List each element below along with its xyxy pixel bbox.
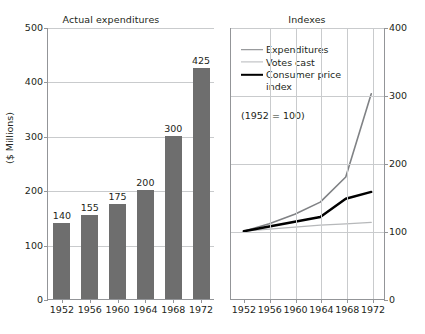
bar-value-label-1952: 140 [46, 211, 78, 221]
bar-1952 [53, 223, 70, 299]
bar-value-label-1968: 300 [157, 124, 189, 134]
x-tick-label-1956: 1956 [78, 305, 102, 315]
gridline-x [270, 28, 271, 299]
y-tick-mark [44, 137, 48, 138]
x-tick-mark [244, 299, 245, 303]
gridline-y [231, 164, 384, 165]
x-tick-mark [373, 299, 374, 303]
gridline-x [373, 28, 374, 299]
y-tick-mark [44, 191, 48, 192]
bar-value-label-1964: 200 [129, 178, 161, 188]
x-tick-mark [296, 299, 297, 303]
y-tick-mark [44, 246, 48, 247]
y-tick-label: 400 [25, 78, 43, 88]
y-tick-label: 0 [37, 295, 43, 305]
bar-1960 [109, 204, 126, 299]
x-tick-label-1968: 1968 [335, 305, 359, 315]
y-tick-label: 500 [25, 23, 43, 33]
figure-root: Actual expenditures ($ Millions) 0100200… [0, 0, 425, 334]
y-tick-label: 300 [25, 132, 43, 142]
gridline-y [231, 28, 384, 29]
bar-1964 [137, 190, 154, 299]
x-tick-label-1968: 1968 [161, 305, 185, 315]
y-tick-mark-right [384, 300, 388, 301]
x-tick-mark [145, 299, 146, 303]
x-tick-mark [347, 299, 348, 303]
bar-chart-plot-area: 0100200300400500140195215519561751960200… [47, 28, 214, 300]
right-chart-title: Indexes [222, 14, 392, 25]
gridline-x [321, 28, 322, 299]
bar-value-label-1956: 155 [74, 203, 106, 213]
y-tick-mark [44, 300, 48, 301]
x-tick-label-1952: 1952 [50, 305, 74, 315]
gridline-y [48, 137, 214, 138]
x-tick-mark [321, 299, 322, 303]
x-tick-label-1964: 1964 [309, 305, 333, 315]
x-tick-label-1964: 1964 [133, 305, 157, 315]
gridline-y [231, 96, 384, 97]
y-tick-label: 200 [25, 186, 43, 196]
y-tick-mark-right [384, 164, 388, 165]
y-tick-label-right: 400 [389, 23, 407, 33]
x-tick-mark [173, 299, 174, 303]
x-tick-label-1972: 1972 [189, 305, 213, 315]
x-tick-mark [270, 299, 271, 303]
gridline-x [347, 28, 348, 299]
actual-expenditures-panel: Actual expenditures ($ Millions) 0100200… [0, 0, 222, 334]
x-tick-mark [62, 299, 63, 303]
x-tick-mark [201, 299, 202, 303]
x-tick-mark [118, 299, 119, 303]
gridline-x [296, 28, 297, 299]
bar-1968 [165, 136, 182, 299]
gridline-y [48, 28, 214, 29]
x-tick-label-1956: 1956 [258, 305, 282, 315]
y-tick-label-right: 0 [389, 295, 395, 305]
y-tick-mark [44, 82, 48, 83]
y-tick-mark [44, 28, 48, 29]
y-tick-mark-right [384, 96, 388, 97]
x-tick-label-1952: 1952 [232, 305, 256, 315]
x-tick-label-1960: 1960 [105, 305, 129, 315]
y-tick-label-right: 200 [389, 159, 407, 169]
gridline-y [231, 232, 384, 233]
y-tick-mark-right [384, 28, 388, 29]
y-tick-label: 100 [25, 241, 43, 251]
y-tick-label-right: 100 [389, 227, 407, 237]
x-tick-label-1960: 1960 [283, 305, 307, 315]
line-series-expenditures [244, 94, 372, 232]
bar-1956 [81, 215, 98, 299]
bar-value-label-1960: 175 [102, 192, 134, 202]
y-tick-label-right: 300 [389, 91, 407, 101]
line-chart-plot-area: Expenditures Votes cast Consumer price i… [230, 28, 385, 300]
left-y-axis-label: ($ Millions) [4, 112, 15, 164]
x-tick-mark [90, 299, 91, 303]
indexes-panel: Indexes Expenditures Votes cast Consumer… [222, 0, 425, 334]
gridline-y [48, 246, 214, 247]
bar-1972 [193, 68, 210, 299]
gridline-y [48, 82, 214, 83]
bar-value-label-1972: 425 [185, 56, 217, 66]
x-tick-label-1972: 1972 [361, 305, 385, 315]
y-tick-mark-right [384, 232, 388, 233]
